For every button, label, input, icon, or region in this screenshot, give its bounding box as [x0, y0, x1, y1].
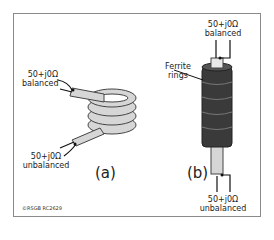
ferrite-balun [202, 58, 232, 174]
part-a-top-label: 50+j0Ω balanced [22, 70, 58, 88]
copyright-notice: ©RSGB RC2629 [22, 205, 62, 211]
coiled-coax [70, 88, 136, 146]
part-b-bottom-label: 50+j0Ω unbalanced [196, 195, 250, 213]
part-a-bottom-label: 50+j0Ω unbalanced [22, 152, 70, 170]
part-b-top-label: 50+j0Ω balanced [196, 20, 250, 38]
part-a-caption: (a) [95, 164, 116, 182]
part-b-caption: (b) [187, 164, 208, 182]
ferrite-rings-label: Ferrite rings [163, 62, 193, 80]
